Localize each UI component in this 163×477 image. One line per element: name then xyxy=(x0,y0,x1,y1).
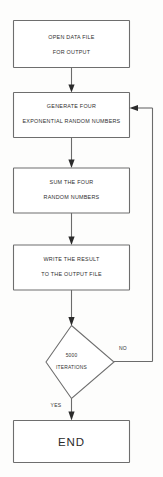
arrow-head-down-icon xyxy=(68,237,74,246)
arrow-head-down-icon xyxy=(68,317,74,326)
node-sum-the-four-shape xyxy=(14,168,130,213)
node-sum-the-four-line2: RANDOM NUMBERS xyxy=(44,194,100,200)
node-generate-four-shape xyxy=(14,93,130,138)
node-write-the-result-shape xyxy=(14,245,130,290)
node-end[interactable]: END xyxy=(14,421,130,463)
node-write-the-result[interactable]: WRITE THE RESULT TO THE OUTPUT FILE xyxy=(14,245,130,290)
edge-label-no: NO xyxy=(119,345,127,351)
connector-open-to-generate xyxy=(68,68,74,93)
flowchart-page: OPEN DATA FILE FOR OUTPUT GENERATE FOUR … xyxy=(0,0,163,477)
node-write-the-result-line2: TO THE OUTPUT FILE xyxy=(41,271,102,277)
node-iterations-decision-line2: ITERATIONS xyxy=(56,365,88,370)
connector-no-feedback-loop xyxy=(114,105,153,362)
node-open-data-file[interactable]: OPEN DATA FILE FOR OUTPUT xyxy=(14,21,130,68)
arrow-head-down-icon xyxy=(68,85,74,93)
node-open-data-file-shape xyxy=(14,21,130,68)
node-write-the-result-line1: WRITE THE RESULT xyxy=(44,256,100,262)
node-generate-four-line2: EXPONENTIAL RANDOM NUMBERS xyxy=(23,118,121,124)
arrow-head-left-icon xyxy=(130,105,139,111)
connector-write-to-decision xyxy=(68,290,74,326)
node-sum-the-four[interactable]: SUM THE FOUR RANDOM NUMBERS xyxy=(14,168,130,213)
node-generate-four-line1: GENERATE FOUR xyxy=(47,103,96,109)
connector-generate-to-sum xyxy=(68,138,74,169)
connector-sum-to-write xyxy=(68,213,74,245)
node-iterations-decision-line1: 5000 xyxy=(66,353,78,358)
connector-yes-to-end xyxy=(68,399,74,421)
node-generate-four[interactable]: GENERATE FOUR EXPONENTIAL RANDOM NUMBERS xyxy=(14,93,130,138)
edge-label-yes: YES xyxy=(51,402,62,408)
node-sum-the-four-line1: SUM THE FOUR xyxy=(50,179,94,185)
node-iterations-decision[interactable]: 5000 ITERATIONS xyxy=(46,326,114,399)
node-iterations-decision-shape xyxy=(46,326,114,399)
flowchart-canvas: OPEN DATA FILE FOR OUTPUT GENERATE FOUR … xyxy=(0,0,163,477)
arrow-head-down-icon xyxy=(68,412,74,421)
node-open-data-file-line2: FOR OUTPUT xyxy=(53,49,91,55)
node-end-label: END xyxy=(58,436,85,448)
arrow-head-down-icon xyxy=(68,160,74,169)
node-open-data-file-line1: OPEN DATA FILE xyxy=(48,34,95,40)
